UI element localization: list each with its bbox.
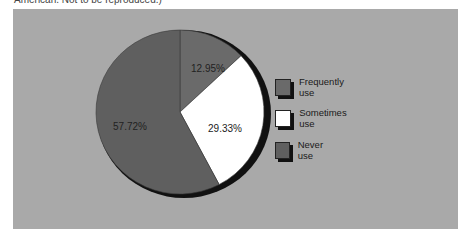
legend-item-frequently: Frequently use [275, 77, 348, 97]
legend-swatch-never [275, 142, 290, 159]
legend-swatch-frequently [275, 79, 291, 96]
pie-slices [96, 30, 264, 194]
legend-swatch-sometimes [275, 110, 291, 127]
legend-label: Never use [298, 139, 329, 161]
pie-chart: 12.95%29.33%57.72% [0, 0, 468, 240]
legend-label: Frequently use [299, 76, 348, 98]
slice-label: 29.33% [208, 123, 242, 134]
legend-label: Sometimes use [299, 107, 350, 129]
slice-label: 12.95% [191, 63, 225, 74]
legend-item-never: Never use [275, 140, 328, 160]
slice-label: 57.72% [113, 121, 147, 132]
legend-item-sometimes: Sometimes use [275, 108, 351, 128]
